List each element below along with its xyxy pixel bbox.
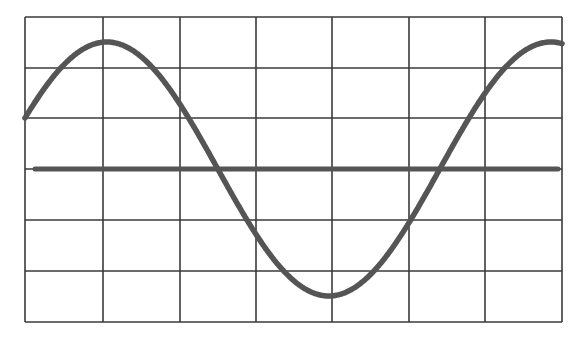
oscilloscope-diagram bbox=[0, 0, 571, 338]
